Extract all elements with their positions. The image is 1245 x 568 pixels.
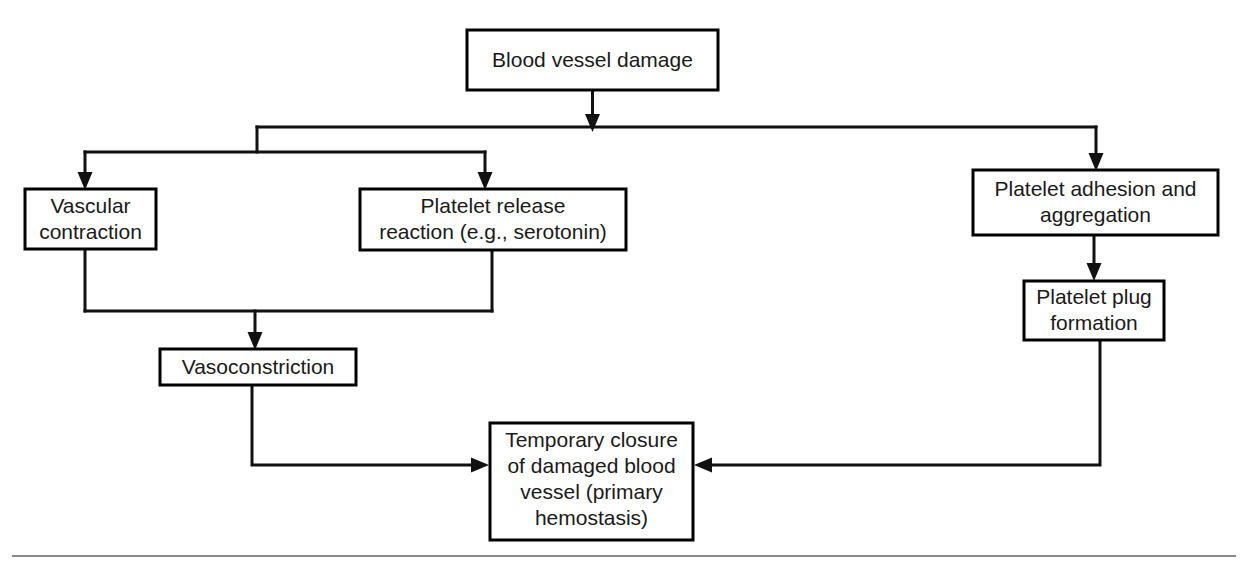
arrowhead-bus-to-adhesion xyxy=(1089,153,1104,171)
arrowhead-adhesion-to-plug xyxy=(1087,263,1102,281)
node-temporary-closure-line1: Temporary closure xyxy=(505,428,678,451)
arrowhead-vasoconstriction-to-closure xyxy=(471,458,489,473)
edge-vasoconstriction-to-closure xyxy=(252,385,478,465)
flowchart-svg: Blood vessel damage Vascular contraction… xyxy=(0,0,1245,568)
arrowhead-damage-to-bus xyxy=(585,114,600,132)
node-platelet-adhesion-aggregation-line1: Platelet adhesion and xyxy=(995,177,1197,200)
node-vascular-contraction[interactable]: Vascular contraction xyxy=(25,189,156,249)
node-vasoconstriction-line1: Vasoconstriction xyxy=(182,355,335,378)
edge-layer xyxy=(78,90,1104,473)
node-blood-vessel-damage-line1: Blood vessel damage xyxy=(492,48,693,71)
node-temporary-closure-line3: vessel (primary xyxy=(520,480,663,503)
arrowhead-bus-to-vascular xyxy=(78,172,93,190)
node-platelet-release-reaction[interactable]: Platelet release reaction (e.g., seroton… xyxy=(360,189,626,250)
node-platelet-release-reaction-line1: Platelet release xyxy=(421,194,566,217)
node-platelet-adhesion-aggregation-line2: aggregation xyxy=(1040,203,1151,226)
node-temporary-closure-line4: hemostasis) xyxy=(535,506,648,529)
edge-plug-to-closure xyxy=(705,340,1100,465)
node-platelet-plug-formation[interactable]: Platelet plug formation xyxy=(1024,281,1164,340)
arrowhead-merge-to-vasoconstriction xyxy=(248,332,263,350)
node-temporary-closure-line2: of damaged blood xyxy=(507,454,675,477)
node-temporary-closure[interactable]: Temporary closure of damaged blood vesse… xyxy=(490,423,693,540)
arrowhead-bus-to-platelet-release xyxy=(478,172,493,190)
node-platelet-adhesion-aggregation[interactable]: Platelet adhesion and aggregation xyxy=(973,170,1218,235)
node-platelet-release-reaction-line2: reaction (e.g., serotonin) xyxy=(379,220,607,243)
node-platelet-plug-formation-line2: formation xyxy=(1050,311,1138,334)
node-blood-vessel-damage[interactable]: Blood vessel damage xyxy=(467,30,718,90)
node-vascular-contraction-line2: contraction xyxy=(39,220,142,243)
node-platelet-plug-formation-line1: Platelet plug xyxy=(1036,285,1152,308)
arrowhead-plug-to-closure xyxy=(694,458,712,473)
diagram-canvas: Blood vessel damage Vascular contraction… xyxy=(0,0,1245,568)
node-vasoconstriction[interactable]: Vasoconstriction xyxy=(160,349,356,385)
node-vascular-contraction-line1: Vascular xyxy=(50,194,130,217)
